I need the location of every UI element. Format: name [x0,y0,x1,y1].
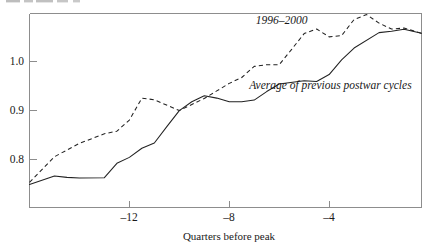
series-label-1996-2000: 1996–2000 [256,14,308,26]
y-tick-label-3: 0.8 [10,153,25,165]
x-axis-title: Quarters before peak [183,230,276,242]
chart-figure: 1.0 0.9 0.8 –12 –8 –4 Quarters before pe… [0,0,431,250]
x-tick-label-3: –4 [322,211,335,223]
y-tick-label-2: 0.9 [10,104,25,116]
y-tick-label-1: 1.0 [10,55,25,67]
line-chart-svg: 1.0 0.9 0.8 –12 –8 –4 Quarters before pe… [0,0,431,250]
x-tick-label-2: –8 [222,211,235,223]
series-label-average-previous-postwar-cycles: Average of previous postwar cycles [248,79,412,92]
x-tick-label-1: –12 [119,211,138,223]
chart-background [0,0,431,250]
